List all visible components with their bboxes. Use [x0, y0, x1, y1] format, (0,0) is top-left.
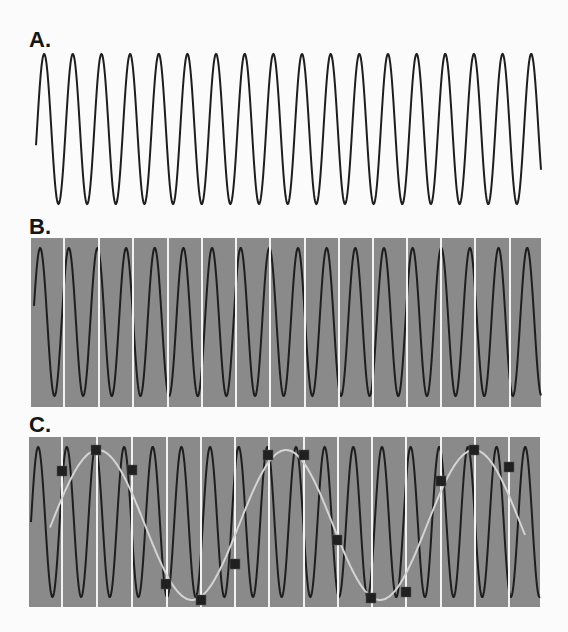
sampling-aliasing-diagram [0, 0, 568, 632]
sample-point-marker [127, 465, 137, 475]
sample-point-marker [161, 579, 171, 589]
sample-point-marker [299, 450, 309, 460]
sample-point-marker [436, 476, 446, 486]
sample-point-marker [230, 559, 240, 569]
sample-point-marker [469, 445, 479, 455]
panel-a-original-signal [36, 54, 541, 204]
sample-point-marker [401, 587, 411, 597]
panel-label-b: B. [29, 216, 51, 238]
sample-point-marker [57, 466, 67, 476]
sample-point-marker [91, 445, 101, 455]
panel-c-aliased-reconstruction [29, 437, 540, 607]
sample-point-marker [332, 535, 342, 545]
panel-label-a: A. [29, 29, 51, 51]
sample-point-marker [366, 593, 376, 603]
signal-wave [36, 54, 541, 204]
panel-b-sampling-intervals [31, 238, 541, 407]
sample-point-marker [196, 595, 206, 605]
sample-point-marker [504, 462, 514, 472]
sample-point-marker [263, 450, 273, 460]
panel-label-c: C. [29, 414, 51, 436]
